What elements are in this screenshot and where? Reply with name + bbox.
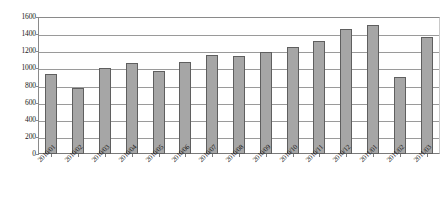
bar <box>260 52 272 154</box>
y-axis-tick-label: 1000 <box>2 64 36 72</box>
bar <box>367 25 379 154</box>
x-axis-tick-mark <box>293 154 294 157</box>
x-axis-tick-mark <box>400 154 401 157</box>
y-axis-tick-mark <box>36 17 39 18</box>
bar <box>287 47 299 154</box>
bar <box>179 62 191 154</box>
bar <box>313 41 325 154</box>
x-axis-tick-mark <box>185 154 186 157</box>
x-axis-tick-mark <box>239 154 240 157</box>
y-axis-tick-mark <box>36 120 39 121</box>
y-axis-tick-label: 400 <box>2 116 36 124</box>
bar <box>153 71 165 154</box>
x-axis-tick-mark <box>159 154 160 157</box>
x-axis-tick-mark <box>78 154 79 157</box>
y-axis-tick-mark <box>36 154 39 155</box>
y-axis-tick-label: 1400 <box>2 30 36 38</box>
x-axis-tick-mark <box>212 154 213 157</box>
bars-layer <box>38 17 440 154</box>
y-axis-tick-label: 1200 <box>2 47 36 55</box>
y-axis-tick-mark <box>36 137 39 138</box>
y-axis-tick-mark <box>36 34 39 35</box>
bar <box>421 37 433 154</box>
y-axis-tick-label: 800 <box>2 82 36 90</box>
y-axis: 02004006008001000120014001600 <box>0 0 36 210</box>
x-axis-tick-mark <box>51 154 52 157</box>
bar <box>99 68 111 154</box>
y-axis-tick-label: 0 <box>2 150 36 158</box>
x-axis-tick-mark <box>132 154 133 157</box>
x-axis-tick-mark <box>373 154 374 157</box>
y-axis-tick-label: 1600 <box>2 13 36 21</box>
x-axis-tick-mark <box>427 154 428 157</box>
x-axis-tick-mark <box>266 154 267 157</box>
y-axis-tick-mark <box>36 51 39 52</box>
bar-chart: 02004006008001000120014001600 2010/01201… <box>0 0 448 210</box>
x-axis-tick-mark <box>319 154 320 157</box>
y-axis-tick-mark <box>36 103 39 104</box>
bar <box>126 63 138 154</box>
bar <box>233 56 245 154</box>
bar <box>340 29 352 154</box>
y-axis-tick-mark <box>36 86 39 87</box>
x-axis-tick-mark <box>346 154 347 157</box>
y-axis-tick-mark <box>36 68 39 69</box>
y-axis-tick-label: 200 <box>2 133 36 141</box>
y-axis-tick-label: 600 <box>2 99 36 107</box>
bar <box>206 55 218 154</box>
x-axis-tick-mark <box>105 154 106 157</box>
